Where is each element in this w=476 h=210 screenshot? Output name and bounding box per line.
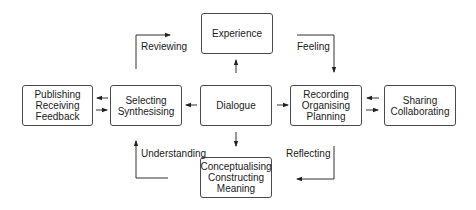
node-publishing-line-3: Feedback [36, 111, 80, 122]
node-recording-line-1: Recording [303, 89, 349, 100]
edge-label-feeling: Feeling [297, 41, 330, 53]
node-conceptualising: Conceptualising Constructing Meaning [200, 157, 272, 198]
node-recording-line-2: Organising [302, 100, 350, 111]
node-selecting-line-1: Selecting [125, 95, 166, 106]
node-dialogue: Dialogue [200, 85, 272, 126]
edge-label-reviewing: Reviewing [141, 41, 187, 53]
node-sharing: Sharing Collaborating [384, 85, 456, 126]
node-dialogue-line-1: Dialogue [216, 100, 255, 111]
node-experience-line-1: Experience [212, 28, 262, 39]
node-recording-line-3: Planning [307, 111, 346, 122]
node-sharing-line-2: Collaborating [391, 106, 450, 117]
node-publishing-line-2: Receiving [36, 100, 80, 111]
edge-label-reflecting: Reflecting [286, 148, 330, 160]
node-publishing: Publishing Receiving Feedback [22, 85, 93, 126]
node-conceptualising-line-1: Conceptualising [200, 161, 271, 172]
node-conceptualising-line-2: Constructing [208, 172, 264, 183]
node-recording: Recording Organising Planning [290, 85, 362, 126]
node-selecting-line-2: Synthesising [118, 106, 175, 117]
node-sharing-line-1: Sharing [403, 95, 437, 106]
node-experience: Experience [201, 13, 273, 54]
node-publishing-line-1: Publishing [34, 89, 80, 100]
node-conceptualising-line-3: Meaning [217, 183, 255, 194]
node-selecting: Selecting Synthesising [110, 85, 182, 126]
edge-label-understanding: Understanding [141, 148, 206, 160]
